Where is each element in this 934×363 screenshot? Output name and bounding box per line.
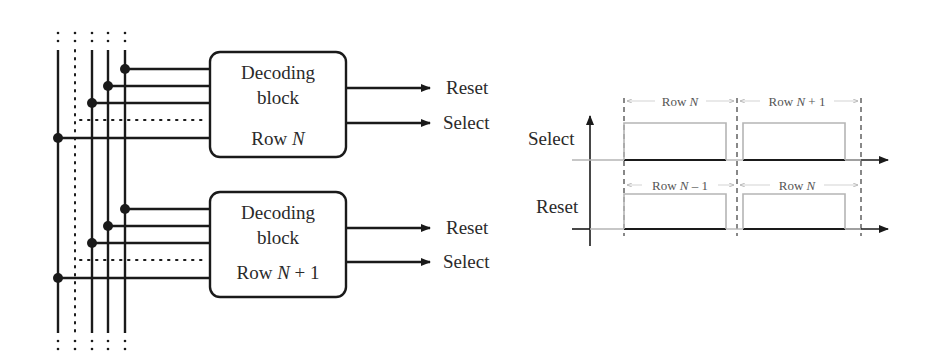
reset-output-label: Reset (446, 217, 489, 238)
select-pulse-label-row-n-plus-1: Row N + 1 (769, 94, 826, 109)
decoding-block-row-n-plus-1: Decoding block Row N + 1 Reset Select (53, 192, 490, 297)
decoding-block-row-n: Decoding block Row N Reset Select (53, 52, 490, 157)
bus-bottom-continuation-dots (57, 340, 127, 351)
select-pulse-label-row-n: Row N (662, 94, 700, 109)
reset-pulse-row-n (743, 194, 845, 229)
block-title-line2: block (257, 227, 300, 248)
row-decoder-diagram: Decoding block Row N Reset Select Decodi… (0, 0, 934, 363)
select-signal-label: Select (528, 128, 575, 149)
reset-output-label: Reset (446, 77, 489, 98)
reset-pulse-label-row-n-minus-1: Row N – 1 (652, 178, 708, 193)
select-signal: Select Row N Row N + 1 (528, 94, 888, 160)
block-row-label: Row N (251, 128, 306, 149)
bus-lines (58, 50, 125, 333)
select-pulse-row-n-plus-1 (743, 123, 845, 160)
select-pulse-row-n (624, 123, 726, 160)
bus-top-continuation-dots (57, 32, 127, 43)
block-1-inputs (58, 69, 210, 138)
reset-signal: Reset Row N – 1 Row N (536, 178, 888, 229)
select-output-label: Select (443, 112, 490, 133)
block-2-inputs (58, 209, 210, 278)
address-bus (57, 32, 127, 351)
block-title-line1: Decoding (241, 62, 315, 83)
reset-pulse-row-n-minus-1 (624, 194, 726, 229)
reset-signal-label: Reset (536, 196, 579, 217)
block-title-line1: Decoding (241, 202, 315, 223)
select-output-label: Select (443, 251, 490, 272)
reset-pulse-label-row-n: Row N (779, 178, 817, 193)
block-title-line2: block (257, 87, 300, 108)
timing-diagram: Select Row N Row N + 1 Reset (528, 94, 888, 246)
block-row-label: Row N + 1 (236, 262, 319, 283)
